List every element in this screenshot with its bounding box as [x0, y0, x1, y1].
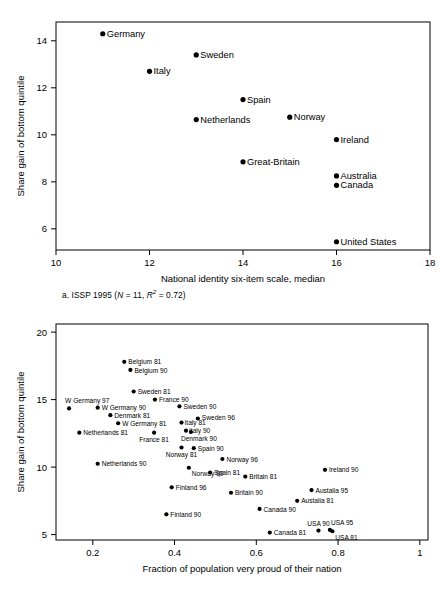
data-point: W Germany 81 [116, 420, 167, 428]
data-point-marker [170, 485, 174, 489]
data-point: Canada [334, 180, 374, 190]
data-point-marker [189, 430, 193, 434]
x-axis-tick-label: 0.8 [331, 547, 344, 558]
y-axis-tick-label: 6 [42, 223, 47, 234]
data-point: Britain 90 [229, 489, 263, 496]
data-point: Netherlands 81 [77, 429, 128, 436]
data-point: Norway 96 [220, 456, 258, 464]
data-point-label: USA 95 [331, 519, 354, 526]
data-point-marker [179, 420, 183, 424]
data-point-label: Belgium 81 [128, 358, 161, 366]
data-point: Finland 96 [170, 484, 207, 491]
x-axis-tick-label: 18 [425, 257, 436, 268]
y-axis-title: Share gain of bottom quintile [15, 372, 26, 493]
data-point-label: Norway 81 [166, 451, 198, 459]
data-point-label: Italy [154, 66, 171, 76]
data-point-marker [334, 239, 339, 244]
data-point-marker [100, 31, 105, 36]
data-point-label: Norway [294, 112, 326, 122]
data-point-marker [229, 491, 233, 495]
data-point: Britain 81 [243, 473, 277, 480]
data-point-label: Italy 81 [184, 419, 206, 427]
y-axis-tick-label: 5 [42, 529, 47, 540]
data-point: Sweden 81 [132, 388, 171, 395]
data-point-label: Sweden [200, 50, 234, 60]
data-point-marker [179, 445, 183, 449]
data-point-label: W Germany 81 [122, 420, 167, 428]
figure-a-caption: a. ISSP 1995 (N = 11, R2 = 0.72) [62, 288, 186, 300]
data-point-marker [208, 470, 212, 474]
data-point-marker [257, 507, 261, 511]
data-point: United States [334, 237, 397, 247]
data-point-marker [287, 115, 292, 120]
data-point-label: Finland 90 [170, 511, 201, 518]
data-point: USA 81 [330, 529, 358, 541]
x-axis-tick-label: 0.4 [168, 547, 181, 558]
data-point: Italy [147, 66, 171, 76]
x-axis-tick-label: 10 [51, 257, 62, 268]
y-axis-tick-label: 10 [36, 129, 47, 140]
data-point: Germany [100, 29, 145, 39]
data-point-label: Ireland 90 [329, 466, 359, 473]
data-point: Sweden 90 [177, 403, 216, 410]
data-point-label: Sweden 96 [202, 414, 235, 421]
data-point-label: Canada [341, 180, 374, 190]
data-point-marker [67, 406, 71, 410]
data-point-label: Belgium 90 [134, 367, 167, 375]
data-point-label: Great-Britain [247, 157, 300, 167]
data-point-marker [96, 462, 100, 466]
x-axis-tick-label: 12 [144, 257, 155, 268]
data-point-label: Netherlands 90 [102, 460, 147, 467]
y-axis-title: Share gain of bottom quintile [15, 76, 26, 197]
data-point-marker [187, 466, 191, 470]
data-point-label: Britain 81 [249, 473, 277, 480]
data-point: Denmark 81 [108, 412, 150, 419]
data-point-marker [194, 52, 199, 57]
x-axis-tick-label: 1 [417, 547, 422, 558]
data-point-label: Germany [107, 29, 146, 39]
data-point-marker [194, 117, 199, 122]
data-point-marker [243, 474, 247, 478]
data-point: Canada 81 [268, 529, 307, 536]
y-axis-tick-label: 20 [36, 327, 47, 338]
data-point-marker [295, 499, 299, 503]
scatter-plot-wvs: 0.20.40.60.815101520Fraction of populati… [0, 307, 446, 589]
data-point-label: USA 90 [307, 520, 330, 527]
data-point-marker [334, 173, 339, 178]
data-point: Spain [240, 95, 270, 105]
data-point-marker [309, 488, 313, 492]
data-point-label: Canada 81 [274, 529, 307, 536]
data-point-label: Denmark 81 [114, 412, 150, 419]
x-axis-title: National identity six-item scale, median [161, 273, 325, 284]
data-point: Great-Britain [240, 157, 299, 167]
data-point: Ireland [334, 135, 369, 145]
data-point-marker [323, 468, 327, 472]
data-point: Netherlands [194, 115, 251, 125]
data-point-label: France 81 [139, 436, 169, 443]
data-point: Belgium 90 [128, 367, 167, 375]
data-point-label: Spain [247, 95, 271, 105]
data-point-marker [128, 368, 132, 372]
data-point-label: Austalia 81 [301, 497, 334, 504]
figure-issp-1995: 101214161868101214National identity six-… [0, 0, 446, 307]
data-point-marker [334, 183, 339, 188]
data-point-marker [316, 528, 320, 532]
data-point: Finland 90 [164, 511, 201, 518]
data-point-label: Netherlands 81 [83, 429, 128, 436]
data-point-label: Sweden 90 [183, 403, 216, 410]
x-axis-tick-label: 16 [331, 257, 342, 268]
data-point-marker [147, 69, 152, 74]
data-point-marker [164, 512, 168, 516]
data-point-label: Ireland [341, 135, 369, 145]
data-point: Belgium 81 [122, 358, 161, 366]
data-point-marker [184, 429, 188, 433]
x-axis-tick-label: 0.6 [250, 547, 263, 558]
data-point: Austalia 81 [295, 497, 334, 504]
data-point-marker [77, 431, 81, 435]
data-point-label: United States [341, 237, 397, 247]
data-point-label: Spain 90 [198, 445, 224, 453]
data-point-label: Spain 81 [214, 469, 240, 477]
data-point-label: Austalia 95 [315, 487, 348, 494]
figure-world-values-survey: 0.20.40.60.815101520Fraction of populati… [0, 307, 446, 607]
x-axis-title: Fraction of population very proud of the… [142, 563, 341, 574]
